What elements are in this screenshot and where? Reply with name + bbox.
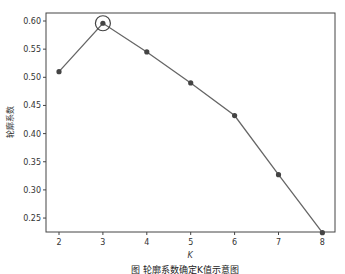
data-point <box>144 49 149 54</box>
x-tick-label: 2 <box>56 238 61 247</box>
y-axis: 0.250.300.350.400.450.500.550.60 <box>23 17 46 223</box>
y-tick-label: 0.55 <box>23 45 41 54</box>
data-point <box>188 80 193 85</box>
y-tick-label: 0.30 <box>23 186 41 195</box>
x-tick-label: 5 <box>188 238 193 247</box>
plot-frame <box>46 13 335 232</box>
x-tick-label: 4 <box>144 238 149 247</box>
silhouette-line-chart: 0.250.300.350.400.450.500.550.60 2345678… <box>0 0 345 274</box>
y-tick-label: 0.40 <box>23 130 41 139</box>
data-point <box>276 172 281 177</box>
data-point <box>320 230 325 235</box>
x-tick-label: 7 <box>276 238 281 247</box>
data-point <box>232 113 237 118</box>
x-tick-label: 8 <box>320 238 325 247</box>
x-tick-label: 3 <box>100 238 105 247</box>
y-tick-label: 0.60 <box>23 17 41 26</box>
x-axis: 2345678 <box>56 232 324 247</box>
figure-caption: 图 轮廓系数确定K值示意图 <box>131 264 239 274</box>
y-tick-label: 0.35 <box>23 158 41 167</box>
y-tick-label: 0.50 <box>23 73 41 82</box>
series-line <box>59 23 322 232</box>
x-tick-label: 6 <box>232 238 237 247</box>
y-tick-label: 0.25 <box>23 214 41 223</box>
x-axis-label: K <box>187 251 193 260</box>
y-tick-label: 0.45 <box>23 101 41 110</box>
data-point <box>100 21 105 26</box>
data-markers <box>56 21 325 236</box>
y-axis-label: 轮廓系数 <box>5 106 15 138</box>
data-point <box>56 69 61 74</box>
